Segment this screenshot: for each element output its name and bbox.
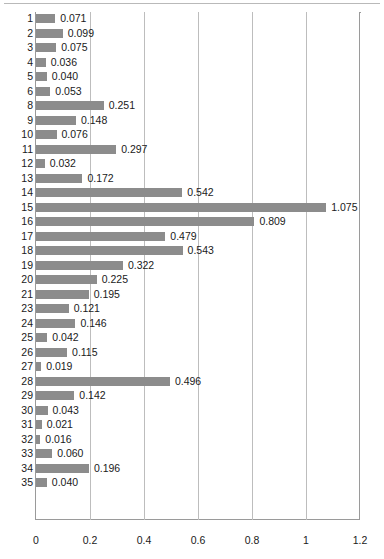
category-label: 14 — [0, 186, 33, 199]
bar — [36, 391, 74, 400]
bar-row: 300.043 — [0, 404, 384, 418]
bar-value-label: 0.040 — [52, 70, 78, 83]
bar — [36, 159, 45, 168]
category-label: 34 — [0, 462, 33, 475]
bar-row: 190.322 — [0, 259, 384, 273]
bar — [36, 130, 57, 139]
bar — [36, 275, 97, 284]
bar — [36, 58, 46, 67]
bar-value-label: 0.115 — [72, 346, 98, 359]
x-axis: 00.20.40.60.811.2 — [0, 520, 384, 550]
category-label: 30 — [0, 404, 33, 417]
category-label: 32 — [0, 433, 33, 446]
bar — [36, 333, 47, 342]
bar-row: 140.542 — [0, 186, 384, 200]
bar — [36, 87, 50, 96]
bar — [36, 72, 47, 81]
bar-value-label: 0.075 — [61, 41, 87, 54]
bar — [36, 217, 254, 226]
bar — [36, 362, 41, 371]
category-label: 9 — [0, 114, 33, 127]
category-label: 15 — [0, 201, 33, 214]
category-label: 11 — [0, 143, 33, 156]
bar-value-label: 0.543 — [188, 244, 214, 257]
bar — [36, 14, 55, 23]
bar-value-label: 0.542 — [187, 186, 213, 199]
bar-value-label: 0.071 — [60, 12, 86, 25]
category-label: 17 — [0, 230, 33, 243]
bar — [36, 174, 82, 183]
bar-row: 130.172 — [0, 172, 384, 186]
bar-value-label: 0.060 — [57, 447, 83, 460]
bar-row: 340.196 — [0, 462, 384, 476]
bar — [36, 203, 326, 212]
bar — [36, 406, 48, 415]
category-label: 27 — [0, 360, 33, 373]
x-tick-label: 1.2 — [353, 534, 368, 547]
bar — [36, 43, 56, 52]
bar-value-label: 0.121 — [74, 302, 100, 315]
category-label: 1 — [0, 12, 33, 25]
bar-row: 110.297 — [0, 143, 384, 157]
bar — [36, 377, 170, 386]
bar-row: 320.016 — [0, 433, 384, 447]
bar — [36, 232, 165, 241]
bar-value-label: 0.251 — [109, 99, 135, 112]
bar-value-label: 0.196 — [94, 462, 120, 475]
bar-row: 30.075 — [0, 41, 384, 55]
category-label: 12 — [0, 157, 33, 170]
bar-row: 270.019 — [0, 360, 384, 374]
category-label: 21 — [0, 288, 33, 301]
bar-value-label: 0.496 — [175, 375, 201, 388]
category-label: 29 — [0, 389, 33, 402]
bar-row: 330.060 — [0, 447, 384, 461]
bar — [36, 101, 104, 110]
horizontal-bar-chart: 10.07120.09930.07540.03650.04060.05380.2… — [0, 0, 384, 559]
bar-row: 200.225 — [0, 273, 384, 287]
bar-rows: 10.07120.09930.07540.03650.04060.05380.2… — [0, 12, 384, 520]
bar-row: 260.115 — [0, 346, 384, 360]
category-label: 24 — [0, 317, 33, 330]
bar-value-label: 0.036 — [51, 56, 77, 69]
bar — [36, 478, 47, 487]
bar — [36, 145, 116, 154]
bar-row: 50.040 — [0, 70, 384, 84]
x-tick-label: 0 — [33, 534, 39, 547]
bar-value-label: 0.146 — [80, 317, 106, 330]
bar-row: 280.496 — [0, 375, 384, 389]
category-label: 33 — [0, 447, 33, 460]
bar-row: 100.076 — [0, 128, 384, 142]
category-label: 4 — [0, 56, 33, 69]
bar-row: 151.075 — [0, 201, 384, 215]
bar-row: 60.053 — [0, 85, 384, 99]
bar-value-label: 0.016 — [45, 433, 71, 446]
category-label: 5 — [0, 70, 33, 83]
bar-value-label: 0.195 — [94, 288, 120, 301]
bar — [36, 449, 52, 458]
category-label: 10 — [0, 128, 33, 141]
bar-row: 230.121 — [0, 302, 384, 316]
category-label: 20 — [0, 273, 33, 286]
x-tick-label: 0.2 — [83, 534, 98, 547]
category-label: 3 — [0, 41, 33, 54]
x-tick-label: 0.4 — [137, 534, 152, 547]
bar-row: 20.099 — [0, 27, 384, 41]
bar — [36, 304, 69, 313]
bar-row: 170.479 — [0, 230, 384, 244]
category-label: 35 — [0, 476, 33, 489]
category-label: 6 — [0, 85, 33, 98]
category-label: 23 — [0, 302, 33, 315]
bar — [36, 435, 40, 444]
bar-value-label: 0.172 — [87, 172, 113, 185]
category-label: 16 — [0, 215, 33, 228]
bar-row: 180.543 — [0, 244, 384, 258]
bar-value-label: 0.142 — [79, 389, 105, 402]
x-tick-label: 0.8 — [245, 534, 260, 547]
bar-value-label: 0.225 — [102, 273, 128, 286]
bar — [36, 246, 183, 255]
bar-row: 90.148 — [0, 114, 384, 128]
bar-row: 40.036 — [0, 56, 384, 70]
bar-row: 290.142 — [0, 389, 384, 403]
category-label: 19 — [0, 259, 33, 272]
bar-value-label: 0.809 — [259, 215, 285, 228]
